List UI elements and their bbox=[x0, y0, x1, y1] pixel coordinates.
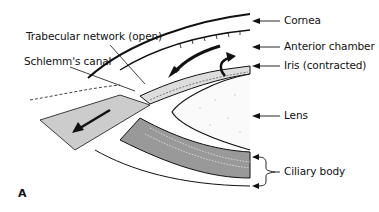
label-cornea: Cornea bbox=[284, 14, 321, 26]
leader-schlemm bbox=[70, 67, 135, 91]
label-lens: Lens bbox=[284, 109, 308, 121]
flow-arrow-chamber bbox=[175, 46, 220, 72]
label-ciliary-body: Ciliary body bbox=[284, 165, 345, 177]
label-schlemms-canal: Schlemm's canal bbox=[24, 55, 111, 67]
label-anterior-chamber: Anterior chamber bbox=[284, 40, 375, 52]
label-trabecular-network: Trabecular network (open) bbox=[26, 30, 162, 42]
cornea-outer-curve bbox=[88, 14, 250, 78]
ciliary-brace bbox=[258, 157, 275, 186]
label-iris: Iris (contracted) bbox=[284, 59, 366, 71]
panel-letter: A bbox=[18, 187, 27, 200]
